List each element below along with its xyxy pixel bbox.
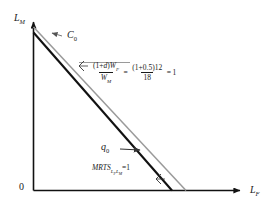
slope-fraction-left-denominator: WM [99, 72, 113, 83]
den-w-sub: M [107, 78, 111, 83]
isocost-pointer-arrow [52, 33, 62, 36]
mrts-subscript: LFLM [111, 169, 122, 174]
diagram-svg [0, 0, 277, 206]
slope-fraction-left: (1+d)WF WM [91, 62, 121, 83]
slope-value-numerator: (1+0.5)12 [130, 64, 164, 72]
mrts-symbol: MRTS [92, 163, 111, 172]
origin-label: 0 [19, 182, 24, 192]
y-axis-label-subscript: M [20, 18, 25, 25]
x-axis-label: LF [250, 185, 260, 198]
x-axis-label-subscript: F [256, 190, 260, 197]
isoquant-label-subscript: 0 [106, 147, 109, 154]
y-axis-label: LM [14, 13, 25, 26]
isocost-label-text: C [67, 29, 74, 40]
equals-sign-1: = [122, 69, 129, 77]
isoquant-label-q0: q0 [101, 142, 109, 155]
axis-lines [34, 22, 241, 191]
isocost-label-subscript: 0 [74, 35, 77, 42]
slope-equation: (1+d)WF WM = (1+0.5)12 18 = 1 [90, 62, 176, 83]
slope-result: 1 [172, 69, 176, 77]
num-open-paren: (1+ [93, 61, 103, 70]
figure-canvas: LM LF 0 C0 q0 (1+d)WF WM = (1+0.5)12 18 … [0, 0, 277, 206]
mrts-value: 1 [126, 163, 130, 172]
slope-fraction-right: (1+0.5)12 18 [130, 64, 164, 81]
mrts-label: MRTSLFLM=1 [92, 164, 130, 176]
slope-value-denominator: 18 [141, 72, 153, 81]
num-w-sub: F [116, 67, 119, 72]
slope-fraction-left-numerator: (1+d)WF [91, 62, 121, 72]
isocost-label-c0: C0 [67, 30, 77, 43]
equals-sign-2: = [165, 69, 172, 77]
